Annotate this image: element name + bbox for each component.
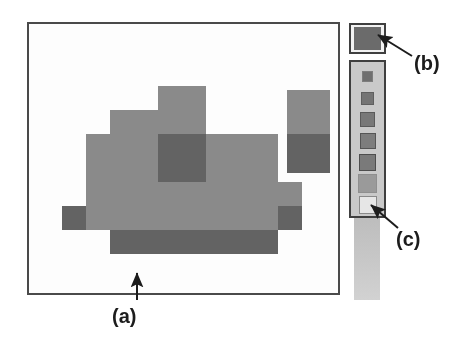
annotation-label-a: (a) <box>112 305 136 328</box>
palette-swatch-6[interactable] <box>358 174 377 193</box>
palette-swatch-cell[interactable] <box>351 130 384 151</box>
palette-swatch-cell[interactable] <box>351 152 384 173</box>
blob-cell <box>110 110 158 134</box>
right-rect-top <box>287 90 330 134</box>
drawing-canvas[interactable] <box>27 22 340 295</box>
palette-swatch-3[interactable] <box>360 112 375 127</box>
blob-cell <box>86 206 278 230</box>
palette-swatch-cell[interactable] <box>351 109 384 130</box>
palette-swatch-4[interactable] <box>360 133 376 149</box>
annotation-label-b: (b) <box>414 52 440 75</box>
selected-color-swatch[interactable] <box>354 27 381 50</box>
palette-swatch-1[interactable] <box>362 71 373 82</box>
blob-cell <box>206 134 278 158</box>
blob-cell <box>206 158 278 182</box>
annotation-label-c: (c) <box>396 228 420 251</box>
canvas-surface[interactable] <box>29 24 338 293</box>
palette-gradient-strip <box>354 218 380 300</box>
blob-cell <box>86 158 158 182</box>
blob-cell <box>110 230 278 254</box>
color-palette[interactable] <box>349 60 386 218</box>
blob-cell <box>158 134 206 158</box>
palette-swatch-cell[interactable] <box>351 195 384 216</box>
blob-cell <box>278 206 302 230</box>
blob-cell <box>158 158 206 182</box>
palette-swatch-cell[interactable] <box>351 66 384 87</box>
blob-cell <box>158 86 206 134</box>
blob-cell <box>86 182 302 206</box>
right-rect-bottom <box>287 134 330 173</box>
blob-cell <box>62 206 86 230</box>
blob-cell <box>86 134 158 158</box>
palette-swatch-5[interactable] <box>359 154 376 171</box>
palette-swatch-7[interactable] <box>359 196 377 214</box>
palette-swatch-2[interactable] <box>361 92 374 105</box>
palette-swatch-cell[interactable] <box>351 87 384 108</box>
figure-root: (a) (b) (c) <box>0 0 465 349</box>
palette-swatch-cell[interactable] <box>351 173 384 194</box>
